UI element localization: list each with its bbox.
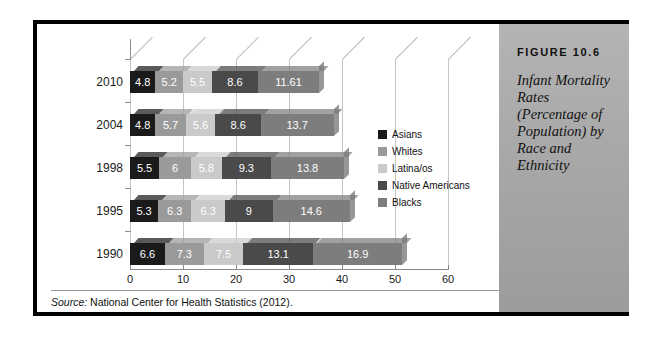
y-axis-tick bbox=[125, 188, 131, 189]
legend-item: Blacks bbox=[378, 195, 470, 210]
y-axis-category-label: 1990 bbox=[65, 247, 123, 261]
caption-panel: FIGURE 10.6 Infant Mortality Rates (Perc… bbox=[499, 24, 629, 312]
legend-item: Asians bbox=[378, 127, 470, 142]
x-axis-tick-label: 10 bbox=[177, 273, 189, 285]
x-axis-tick bbox=[183, 265, 184, 270]
bar-value-label: 7.3 bbox=[165, 243, 204, 265]
gridline-perspective bbox=[395, 37, 418, 60]
bar-value-label: 14.6 bbox=[273, 200, 350, 222]
bar-segment: 8.6 bbox=[212, 71, 258, 93]
legend-swatch bbox=[378, 147, 387, 156]
bar-value-label: 13.7 bbox=[261, 114, 334, 136]
bar-value-label: 9.3 bbox=[222, 157, 271, 179]
bar-segment: 6.3 bbox=[158, 200, 191, 222]
bar-segment: 5.8 bbox=[191, 157, 222, 179]
x-axis-tick bbox=[342, 265, 343, 270]
source-text: National Center for Health Statistics (2… bbox=[87, 296, 292, 308]
x-axis-tick-label: 0 bbox=[127, 273, 133, 285]
figure-number: FIGURE 10.6 bbox=[517, 46, 601, 58]
bar-value-label: 11.61 bbox=[258, 71, 320, 93]
bar-segment: 5.6 bbox=[186, 114, 216, 136]
bar-value-label: 6.3 bbox=[158, 200, 191, 222]
bar-segment: 8.6 bbox=[215, 114, 261, 136]
y-axis-tick bbox=[125, 145, 131, 146]
gridline-perspective bbox=[183, 37, 206, 60]
x-axis-tick bbox=[236, 265, 237, 270]
figure-caption: Infant Mortality Rates (Percentage of Po… bbox=[517, 72, 621, 174]
bar-segment: 13.7 bbox=[261, 114, 334, 136]
bar-segment: 9.3 bbox=[222, 157, 271, 179]
x-axis-tick-label: 40 bbox=[336, 273, 348, 285]
bar-value-label: 5.7 bbox=[155, 114, 185, 136]
y-axis-category-label: 1998 bbox=[65, 161, 123, 175]
bar-segment: 13.1 bbox=[243, 243, 312, 265]
gridline-perspective bbox=[130, 37, 153, 60]
source-prefix: Source: bbox=[51, 296, 87, 308]
source-note: Source: National Center for Health Stati… bbox=[51, 296, 293, 308]
legend-swatch bbox=[378, 164, 387, 173]
x-axis-tick bbox=[395, 265, 396, 270]
y-axis-category-label: 2004 bbox=[65, 118, 123, 132]
gridline-perspective bbox=[342, 37, 365, 60]
bar-value-label: 6 bbox=[159, 157, 191, 179]
bar-value-label: 9 bbox=[225, 200, 273, 222]
x-axis-tick-label: 50 bbox=[389, 273, 401, 285]
y-axis-tick bbox=[125, 59, 131, 60]
bar-segment: 7.3 bbox=[165, 243, 204, 265]
bar-value-label: 13.1 bbox=[243, 243, 312, 265]
x-axis-tick bbox=[289, 265, 290, 270]
bar-segment: 5.7 bbox=[155, 114, 185, 136]
bar-segment: 9 bbox=[225, 200, 273, 222]
x-axis-tick-label: 30 bbox=[283, 273, 295, 285]
figure-frame: 4.85.25.58.611.614.85.75.68.613.75.565.8… bbox=[33, 20, 629, 316]
bar-segment: 5.5 bbox=[130, 157, 159, 179]
bar-value-label: 4.8 bbox=[130, 71, 155, 93]
x-axis-tick-label: 20 bbox=[230, 273, 242, 285]
legend-label: Whites bbox=[392, 146, 423, 157]
gridline-perspective bbox=[289, 37, 312, 60]
gridline-perspective bbox=[236, 37, 259, 60]
y-axis-category-label: 1995 bbox=[65, 204, 123, 218]
bar-segment: 4.8 bbox=[130, 114, 155, 136]
legend-label: Latina/os bbox=[392, 163, 433, 174]
x-axis-tick-label: 60 bbox=[442, 273, 454, 285]
y-axis-tick bbox=[125, 231, 131, 232]
legend-item: Native Americans bbox=[378, 178, 470, 193]
bar-value-label: 5.8 bbox=[191, 157, 222, 179]
bar-value-label: 6.6 bbox=[130, 243, 165, 265]
bar-value-label: 8.6 bbox=[212, 71, 258, 93]
legend-label: Blacks bbox=[392, 197, 421, 208]
y-axis-category-label: 2010 bbox=[65, 75, 123, 89]
legend-swatch bbox=[378, 198, 387, 207]
bar-segment: 11.61 bbox=[258, 71, 320, 93]
bar-value-label: 8.6 bbox=[215, 114, 261, 136]
bar-value-label: 5.6 bbox=[186, 114, 216, 136]
y-axis-tick bbox=[125, 102, 131, 103]
legend-swatch bbox=[378, 130, 387, 139]
bar-value-label: 4.8 bbox=[130, 114, 155, 136]
bar-segment: 4.8 bbox=[130, 71, 155, 93]
bar-value-label: 5.2 bbox=[155, 71, 183, 93]
bar-segment: 14.6 bbox=[273, 200, 350, 222]
bar-value-label: 6.3 bbox=[191, 200, 224, 222]
chart-legend: AsiansWhitesLatina/osNative AmericansBla… bbox=[378, 127, 470, 212]
bar-segment: 5.2 bbox=[155, 71, 183, 93]
legend-swatch bbox=[378, 181, 387, 190]
bar-segment: 6.3 bbox=[191, 200, 224, 222]
bar-value-label: 7.5 bbox=[204, 243, 244, 265]
x-axis-tick bbox=[448, 265, 449, 270]
bar-value-label: 16.9 bbox=[313, 243, 403, 265]
bar-value-label: 5.5 bbox=[130, 157, 159, 179]
bar-segment: 6 bbox=[159, 157, 191, 179]
bar-segment: 7.5 bbox=[204, 243, 244, 265]
legend-label: Asians bbox=[392, 129, 422, 140]
x-axis-tick bbox=[130, 265, 131, 270]
bar-segment: 5.3 bbox=[130, 200, 158, 222]
bar-segment: 6.6 bbox=[130, 243, 165, 265]
bar-value-label: 5.5 bbox=[183, 71, 212, 93]
bar-segment: 16.9 bbox=[313, 243, 403, 265]
legend-item: Latina/os bbox=[378, 161, 470, 176]
legend-label: Native Americans bbox=[392, 180, 470, 191]
bar-value-label: 5.3 bbox=[130, 200, 158, 222]
legend-item: Whites bbox=[378, 144, 470, 159]
